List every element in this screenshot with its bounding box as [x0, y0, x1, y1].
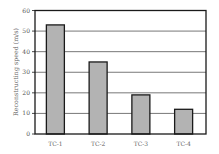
- y-tick-label: 0: [26, 130, 30, 137]
- bar-chart: 0102030405060 TC-1TC-2TC-3TC-4 Reconstru…: [0, 0, 219, 154]
- x-axis-labels: TC-1TC-2TC-3TC-4: [48, 140, 191, 147]
- x-tick-label: TC-3: [134, 140, 149, 147]
- bars: [46, 25, 192, 134]
- y-axis-label: Reconstructing speed (m/s): [12, 28, 20, 116]
- y-tick-label: 50: [22, 27, 30, 34]
- y-tick-label: 30: [22, 68, 30, 75]
- bar-tc-1: [46, 25, 64, 134]
- y-axis-ticks: 0102030405060: [22, 7, 35, 138]
- x-tick-label: TC-4: [176, 140, 191, 147]
- bar-tc-3: [132, 95, 150, 134]
- x-tick-label: TC-1: [48, 140, 62, 147]
- bar-tc-2: [89, 62, 107, 134]
- y-tick-label: 20: [22, 89, 30, 96]
- x-tick-label: TC-2: [91, 140, 106, 147]
- bar-tc-4: [175, 109, 193, 134]
- y-tick-label: 10: [22, 109, 30, 116]
- y-tick-label: 40: [22, 48, 30, 55]
- y-tick-label: 60: [22, 7, 30, 14]
